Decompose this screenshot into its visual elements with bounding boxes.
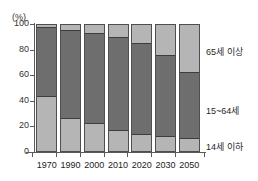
- legend-label-65-and-over: 65세 이상: [206, 45, 243, 58]
- bar-segment-2050-15~64세: [180, 72, 199, 140]
- bar-segment-2050-65세 이상: [180, 24, 199, 72]
- x-axis-label-2050: 2050: [175, 160, 203, 170]
- bar-2030[interactable]: [155, 24, 176, 152]
- x-axis-line: [26, 152, 206, 153]
- x-axis-tick: [151, 152, 152, 157]
- y-axis-tick-label: 40: [3, 96, 29, 105]
- chart-container: (%) 020406080100 65세 이상 15~64세 14세 이하 19…: [0, 0, 258, 181]
- bar-segment-2000-65세 이상: [85, 24, 104, 33]
- y-axis-tick-label: 80: [3, 45, 29, 54]
- bar-2000[interactable]: [84, 24, 105, 152]
- y-axis-tick: [30, 50, 35, 51]
- bar-2010[interactable]: [108, 24, 129, 152]
- x-axis-tick: [56, 152, 57, 157]
- y-axis-tick: [30, 126, 35, 127]
- x-axis-tick: [80, 152, 81, 157]
- y-axis-tick: [30, 101, 35, 102]
- bar-segment-2000-15~64세: [85, 33, 104, 124]
- bar-segment-2010-65세 이상: [109, 24, 128, 37]
- x-axis-tick: [127, 152, 128, 157]
- chart-title: [55, 0, 205, 4]
- legend-label-14-and-under: 14세 이하: [206, 140, 243, 153]
- y-axis-labels: 020406080100: [0, 0, 29, 181]
- x-axis-tick: [32, 152, 33, 157]
- bar-segment-1970-15~64세: [37, 27, 56, 97]
- bar-segment-2020-15~64세: [132, 43, 151, 135]
- y-axis-tick: [30, 75, 35, 76]
- x-axis-tick: [175, 152, 176, 157]
- bar-segment-1990-14세 이하: [61, 119, 80, 151]
- y-axis-tick-label: 20: [3, 121, 29, 130]
- bar-segment-2020-14세 이하: [132, 135, 151, 151]
- bar-2050[interactable]: [179, 24, 200, 152]
- bar-segment-1970-14세 이하: [37, 97, 56, 151]
- x-axis-tick: [204, 152, 205, 157]
- bar-2020[interactable]: [131, 24, 152, 152]
- bar-segment-2030-65세 이상: [156, 24, 175, 55]
- bar-segment-2030-14세 이하: [156, 137, 175, 151]
- y-axis-tick-label: 60: [3, 70, 29, 79]
- bar-segment-1990-65세 이상: [61, 24, 80, 30]
- bar-segment-2020-65세 이상: [132, 24, 151, 43]
- legend-label-15-to-64: 15~64세: [206, 104, 239, 117]
- bar-segment-2030-15~64세: [156, 55, 175, 137]
- bar-1970[interactable]: [36, 24, 57, 152]
- bar-segment-2050-14세 이하: [180, 139, 199, 151]
- bar-segment-1990-15~64세: [61, 30, 80, 119]
- bar-1990[interactable]: [60, 24, 81, 152]
- bar-segment-2010-15~64세: [109, 37, 128, 130]
- x-axis-tick: [104, 152, 105, 157]
- bar-segment-1970-65세 이상: [37, 24, 56, 27]
- y-axis-tick: [30, 24, 35, 25]
- bar-segment-2010-14세 이하: [109, 131, 128, 151]
- y-axis-tick-label: 100: [3, 19, 29, 28]
- bar-segment-2000-14세 이하: [85, 124, 104, 151]
